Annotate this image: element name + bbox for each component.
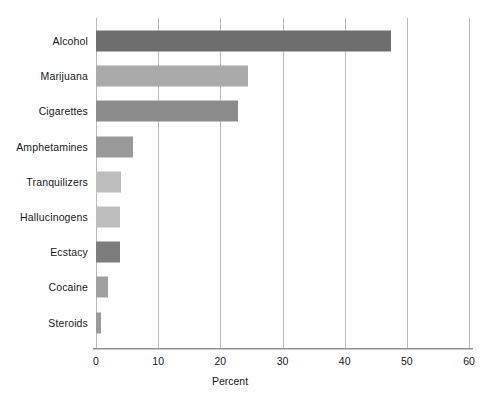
- bar: [96, 136, 133, 157]
- category-axis-labels: Alcohol Marijuana Cigarettes Amphetamine…: [0, 0, 88, 418]
- bar: [96, 312, 101, 333]
- category-label: Cigarettes: [0, 105, 88, 117]
- x-tick-label: 0: [93, 355, 99, 367]
- bar: [96, 31, 391, 52]
- bar-chart: Alcohol Marijuana Cigarettes Amphetamine…: [0, 0, 492, 418]
- x-axis-line-shadow: [93, 349, 473, 350]
- bar: [96, 242, 120, 263]
- gridline: [407, 18, 408, 348]
- bar: [96, 171, 121, 192]
- plot-area: [96, 18, 469, 348]
- category-label: Cocaine: [0, 281, 88, 293]
- bar: [96, 207, 120, 228]
- x-tick-label: 50: [401, 355, 413, 367]
- category-label: Steroids: [0, 317, 88, 329]
- category-label: Marijuana: [0, 70, 88, 82]
- category-label: Amphetamines: [0, 141, 88, 153]
- x-axis-title: Percent: [212, 375, 248, 387]
- x-tick-label: 10: [152, 355, 164, 367]
- gridline: [345, 18, 346, 348]
- x-tick-label: 20: [214, 355, 226, 367]
- x-tick-label: 40: [339, 355, 351, 367]
- x-tick-label: 60: [463, 355, 475, 367]
- gridline: [469, 18, 470, 348]
- bar: [96, 66, 248, 87]
- bar: [96, 101, 238, 122]
- category-label: Alcohol: [0, 35, 88, 47]
- category-label: Hallucinogens: [0, 211, 88, 223]
- bar: [96, 277, 108, 298]
- x-tick-label: 30: [277, 355, 289, 367]
- gridline: [283, 18, 284, 348]
- category-label: Tranquilizers: [0, 176, 88, 188]
- category-label: Ecstacy: [0, 246, 88, 258]
